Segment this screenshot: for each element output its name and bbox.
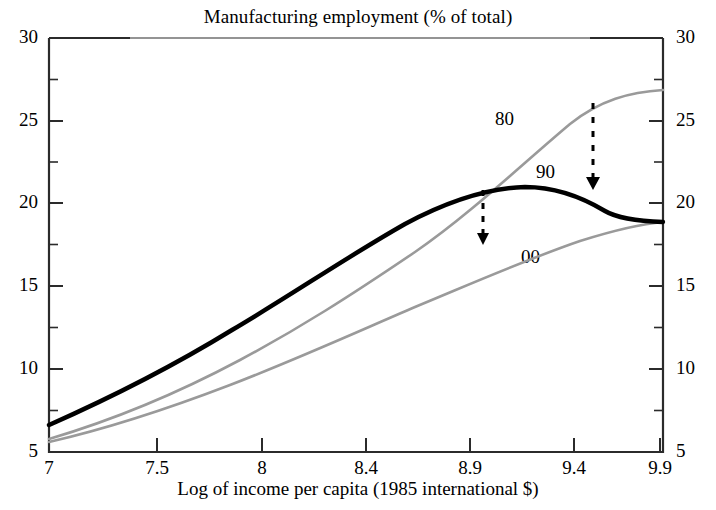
x-axis-ticks [49, 438, 660, 452]
series-curve-80 [49, 90, 663, 439]
annotation-arrow-80-to-90 [586, 103, 600, 190]
y-axis-right-minor-ticks [654, 80, 663, 411]
y-axis-left-minor-ticks [49, 80, 58, 411]
plot-area [0, 0, 716, 510]
chart-figure: Manufacturing employment (% of total) 30… [0, 0, 716, 510]
series-curve-90 [49, 187, 663, 425]
